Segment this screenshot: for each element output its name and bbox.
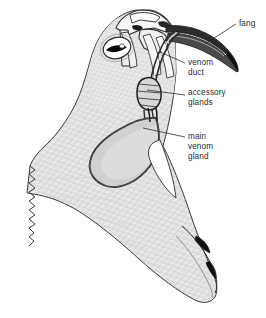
label-accessory-glands: accessory glands <box>188 88 228 107</box>
label-main-venom-gland: main venom gland <box>188 132 215 161</box>
snake-venom-apparatus-diagram: fang venom duct accessory glands main ve… <box>0 0 266 318</box>
leader-line-fang <box>205 24 236 44</box>
label-venom-duct: venom duct <box>188 58 215 77</box>
label-fang: fang <box>239 19 256 28</box>
anatomy-figure: fang venom duct accessory glands main ve… <box>0 0 266 318</box>
